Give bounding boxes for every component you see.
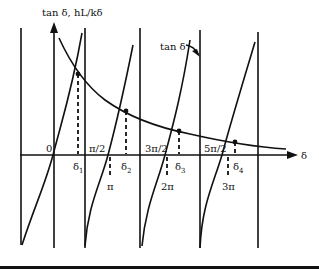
pi-half-label: π/2 — [89, 143, 105, 154]
x-axis-label: δ — [301, 150, 307, 161]
eigenvalue-diagram: tan δ, hL/kδ δ tan δ 0 π/2 3π/2 5π/2 δ1 … — [0, 0, 319, 270]
tan-pointer-arrowhead-icon — [192, 49, 200, 57]
intersection-point-2 — [124, 109, 129, 114]
3pi-label: 3π — [222, 181, 235, 192]
intersection-point-3 — [177, 129, 182, 134]
root-label-2: δ2 — [121, 161, 132, 175]
root-label-1: δ1 — [73, 161, 84, 175]
5pi-half-label: 5π/2 — [204, 143, 227, 154]
root-label-3: δ3 — [175, 161, 186, 175]
bottom-rule — [0, 266, 319, 269]
3pi-half-label: 3π/2 — [145, 143, 168, 154]
y-axis-label: tan δ, hL/kδ — [42, 7, 103, 18]
2pi-label: 2π — [161, 181, 174, 192]
pi-label: π — [107, 181, 114, 192]
x-axis-arrowhead-icon — [287, 151, 298, 159]
tan-curve-label: tan δ — [160, 41, 186, 52]
intersection-point-4 — [233, 140, 238, 145]
origin-label: 0 — [46, 143, 52, 154]
root-label-4: δ4 — [233, 161, 244, 175]
y-axis-arrowhead-icon — [50, 22, 58, 33]
intersection-point-1 — [76, 72, 81, 77]
